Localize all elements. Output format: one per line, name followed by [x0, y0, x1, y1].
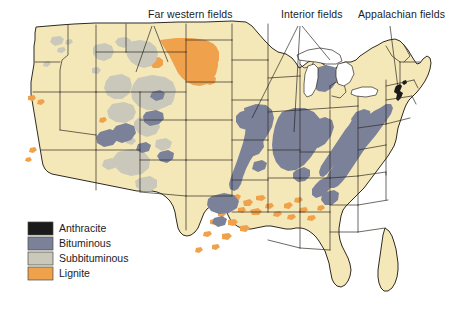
- legend-swatch-bituminous: [28, 237, 53, 250]
- legend-item-bituminous[interactable]: Bituminous: [28, 237, 111, 250]
- coal-fields-map-figure: Far western fields Interior fields Appal…: [0, 0, 476, 310]
- legend-item-anthracite[interactable]: Anthracite: [28, 222, 106, 235]
- legend-swatch-anthracite: [28, 222, 53, 235]
- callout-interior-label: Interior fields: [281, 8, 343, 20]
- map-canvas: Far western fields Interior fields Appal…: [0, 0, 476, 310]
- legend-label-anthracite: Anthracite: [59, 222, 106, 234]
- legend-label-lignite: Lignite: [59, 267, 90, 279]
- legend-label-bituminous: Bituminous: [59, 237, 111, 249]
- callout-far-western-label: Far western fields: [148, 8, 233, 20]
- callout-labels: Far western fields Interior fields Appal…: [148, 8, 445, 20]
- legend-item-subbituminous[interactable]: Subbituminous: [28, 252, 128, 265]
- callout-appalachian-label: Appalachian fields: [358, 8, 445, 20]
- legend-label-subbituminous: Subbituminous: [59, 252, 128, 264]
- legend-swatch-subbituminous: [28, 252, 53, 265]
- legend-swatch-lignite: [28, 267, 53, 280]
- legend-item-lignite[interactable]: Lignite: [28, 267, 90, 280]
